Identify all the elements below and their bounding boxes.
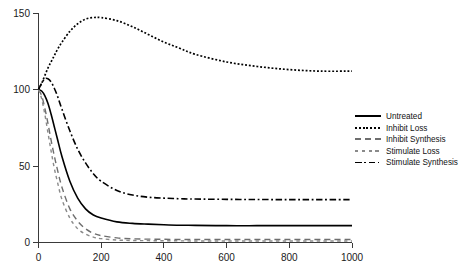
- legend-label-inhibit-synthesis: Inhibit Synthesis: [386, 135, 446, 144]
- legend-label-untreated: Untreated: [386, 112, 422, 121]
- chart-figure: 150 100 50 0 0 200 400 600 800 1000 Untr…: [0, 0, 464, 273]
- x-tick-label: 600: [218, 252, 235, 263]
- y-tick-label: 0: [24, 237, 30, 248]
- y-tick-label: 100: [13, 84, 30, 95]
- line-chart: 150 100 50 0 0 200 400 600 800 1000 Untr…: [0, 0, 464, 273]
- x-tick-label: 800: [281, 252, 298, 263]
- x-tick-label: 400: [156, 252, 173, 263]
- y-tick-label: 50: [19, 161, 31, 172]
- x-tick-label: 1000: [341, 252, 364, 263]
- x-tick-label: 200: [93, 252, 110, 263]
- legend-label-inhibit-loss: Inhibit Loss: [386, 124, 427, 133]
- y-tick-label: 150: [13, 8, 30, 19]
- legend-label-stimulate-loss: Stimulate Loss: [386, 147, 440, 156]
- legend-label-stimulate-synthesis: Stimulate Synthesis: [386, 158, 458, 167]
- x-tick-label: 0: [36, 252, 42, 263]
